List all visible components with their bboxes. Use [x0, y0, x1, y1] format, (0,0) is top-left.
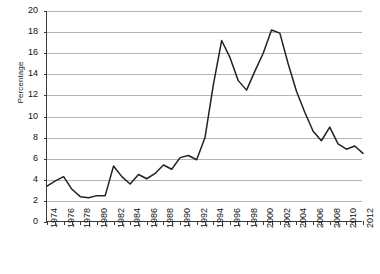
y-axis-tick-label: 8 [12, 133, 38, 142]
x-axis-tick-label: 1986 [150, 208, 159, 228]
x-axis-tick-label: 2004 [299, 208, 308, 228]
y-axis-tick-label: 16 [12, 48, 38, 57]
x-axis-tick-label: 1994 [216, 208, 225, 228]
x-axis-tick-label: 2000 [266, 208, 275, 228]
y-axis-tick-label: 2 [12, 196, 38, 205]
x-axis-tick-label: 2010 [349, 208, 358, 228]
x-axis-tick-label: 1990 [183, 208, 192, 228]
x-axis-tick-label: 1974 [50, 208, 59, 228]
y-axis-tick-label: 12 [12, 90, 38, 99]
x-axis-tick-label: 1984 [133, 208, 142, 228]
y-axis-tick-label: 4 [12, 175, 38, 184]
line-chart: Percentage 02468101214161820 19741976197… [0, 0, 380, 274]
x-axis-tick-label: 1976 [67, 208, 76, 228]
x-axis-tick-label: 2006 [316, 208, 325, 228]
data-line-series [47, 11, 363, 222]
x-axis-tick-label: 1992 [200, 208, 209, 228]
x-axis-tick-label: 2008 [333, 208, 342, 228]
y-axis-tick-label: 6 [12, 154, 38, 163]
x-axis-tick-label: 1982 [117, 208, 126, 228]
x-axis-tick-label: 1996 [233, 208, 242, 228]
x-axis-tick-label: 1978 [83, 208, 92, 228]
y-axis-tick-label: 18 [12, 27, 38, 36]
data-line [47, 30, 363, 198]
y-axis-tick-label: 10 [12, 112, 38, 121]
plot-area [46, 11, 362, 222]
x-axis-tick-label: 2012 [366, 208, 375, 228]
y-axis-tick-label: 14 [12, 69, 38, 78]
x-axis-tick-label: 1988 [166, 208, 175, 228]
x-axis-tick-label: 1998 [250, 208, 259, 228]
x-axis-tick-mark [363, 221, 364, 225]
y-axis-tick-label: 0 [12, 217, 38, 226]
x-axis-tick-label: 1980 [100, 208, 109, 228]
x-axis-tick-label: 2002 [283, 208, 292, 228]
y-axis-tick-label: 20 [12, 6, 38, 15]
